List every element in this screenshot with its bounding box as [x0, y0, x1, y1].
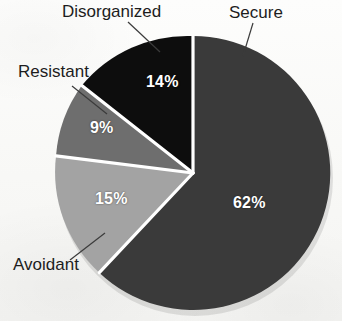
pie-chart-figure: Disorganized Secure Resistant Avoidant 6…	[0, 0, 342, 321]
slice-value-secure: 62%	[233, 194, 266, 212]
slice-value-disorganized: 14%	[146, 73, 179, 91]
slice-value-avoidant: 15%	[95, 190, 128, 208]
slice-value-resistant: 9%	[90, 119, 114, 137]
slice-label-resistant: Resistant	[18, 62, 89, 82]
slice-label-secure: Secure	[229, 3, 283, 23]
slice-label-avoidant: Avoidant	[13, 255, 79, 275]
slice-label-disorganized: Disorganized	[62, 2, 161, 22]
